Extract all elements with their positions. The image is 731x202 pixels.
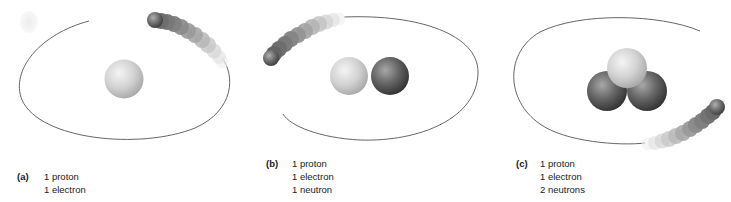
caption-line: 1 electron	[44, 183, 86, 196]
caption-line: 1 proton	[44, 170, 86, 183]
electron-trail	[642, 104, 722, 151]
panel-label: (c)	[516, 157, 528, 170]
ghost-artifact	[20, 11, 38, 33]
panel-b	[263, 13, 478, 141]
caption-line: 2 neutrons	[540, 183, 585, 196]
caption-line: 1 electron	[540, 170, 585, 183]
electron-icon	[709, 99, 725, 115]
electron-icon	[147, 12, 163, 28]
caption-line: 1 proton	[540, 157, 585, 170]
panel-c	[514, 18, 725, 151]
electron-trail	[153, 13, 229, 69]
proton-icon	[330, 57, 368, 95]
caption-line: 1 electron	[292, 170, 334, 183]
proton-icon	[105, 60, 144, 99]
caption-line: 1 neutron	[292, 183, 334, 196]
neutron-icon	[371, 57, 409, 95]
panel-a	[19, 11, 229, 139]
panel-label: (a)	[17, 170, 29, 183]
proton-icon	[607, 48, 647, 88]
panel-label: (b)	[266, 157, 278, 170]
caption-line: 1 proton	[292, 157, 334, 170]
isotope-diagram	[0, 0, 731, 202]
electron-icon	[263, 50, 279, 66]
